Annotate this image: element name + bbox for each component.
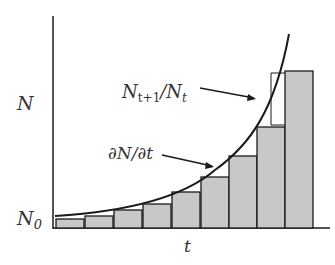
x-axis-label: t — [184, 236, 191, 256]
arrow-head-icon — [205, 162, 214, 169]
bar — [143, 204, 171, 228]
bar — [85, 216, 113, 228]
bar — [56, 219, 84, 228]
bar — [229, 156, 257, 228]
bar — [114, 210, 142, 228]
bar — [285, 71, 313, 228]
bar — [257, 127, 285, 228]
ratio-label: Nt+1/Nt — [121, 81, 187, 105]
arrow-head-icon — [247, 94, 256, 101]
bar — [201, 177, 229, 228]
derivative-label: ∂N/∂t — [108, 143, 153, 163]
y-axis-label: N — [16, 92, 35, 114]
growth-diagram: N N0 t Nt+1/Nt ∂N/∂t — [0, 0, 335, 265]
ratio-arrow — [200, 88, 254, 98]
bar — [172, 192, 200, 228]
n0-label: N0 — [16, 207, 42, 232]
derivative-arrow — [162, 155, 212, 166]
